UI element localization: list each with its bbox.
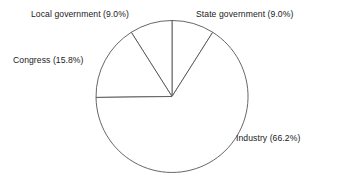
pie-label-local-government: Local government (9.0%) — [31, 9, 129, 20]
pie-label-congress: Congress (15.8%) — [13, 55, 84, 66]
pie-label-industry: Industry (66.2%) — [236, 133, 300, 144]
pie-chart-figure: Local government (9.0%) State government… — [0, 0, 337, 185]
pie-chart-canvas — [0, 0, 337, 185]
pie-label-state-government: State government (9.0%) — [196, 9, 293, 20]
